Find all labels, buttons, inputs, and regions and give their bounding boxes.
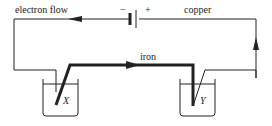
electron-flow-arrow-icon xyxy=(68,16,82,22)
electrochemical-cell-diagram: electron flow − + copper iron X Y xyxy=(0,0,272,126)
beaker-x xyxy=(43,79,78,116)
copper-wire xyxy=(14,19,256,78)
battery-icon xyxy=(130,10,136,28)
beaker-x-label: X xyxy=(62,95,70,106)
left-lead-wire xyxy=(14,70,56,92)
electron-flow-label: electron flow xyxy=(15,4,69,15)
beaker-y xyxy=(180,79,215,116)
iron-label: iron xyxy=(140,51,156,62)
plus-label: + xyxy=(145,4,151,15)
copper-label: copper xyxy=(184,4,212,15)
beaker-y-label: Y xyxy=(200,95,207,106)
minus-label: − xyxy=(120,4,126,15)
upward-arrow-icon xyxy=(253,37,259,50)
